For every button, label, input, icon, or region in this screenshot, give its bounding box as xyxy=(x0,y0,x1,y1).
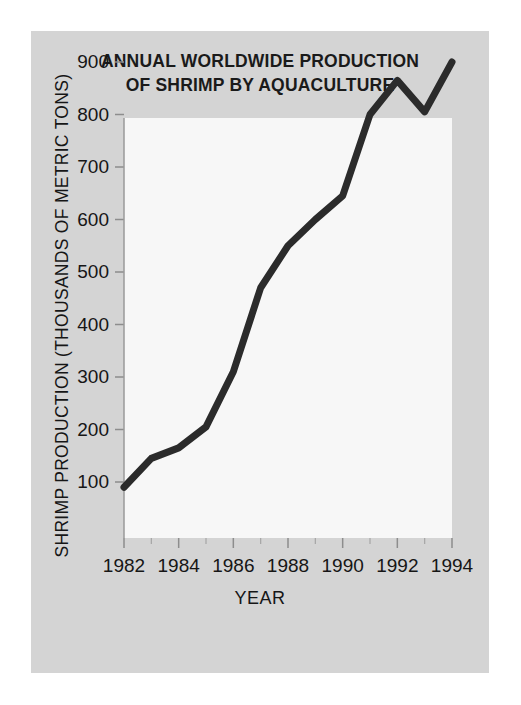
x-axis-tick-marks xyxy=(124,538,452,548)
x-axis-title: YEAR xyxy=(31,588,489,609)
chart-figure: ANNUAL WORLDWIDE PRODUCTION OF SHRIMP BY… xyxy=(31,31,489,673)
data-series-line xyxy=(124,62,452,487)
y-axis-tick-marks xyxy=(115,62,124,482)
x-tick-label: 1994 xyxy=(417,556,487,575)
y-axis-title: SHRIMP PRODUCTION (THOUSANDS OF METRIC T… xyxy=(52,118,73,558)
chart-canvas xyxy=(31,31,489,673)
y-tick-label: 900 xyxy=(49,52,109,71)
